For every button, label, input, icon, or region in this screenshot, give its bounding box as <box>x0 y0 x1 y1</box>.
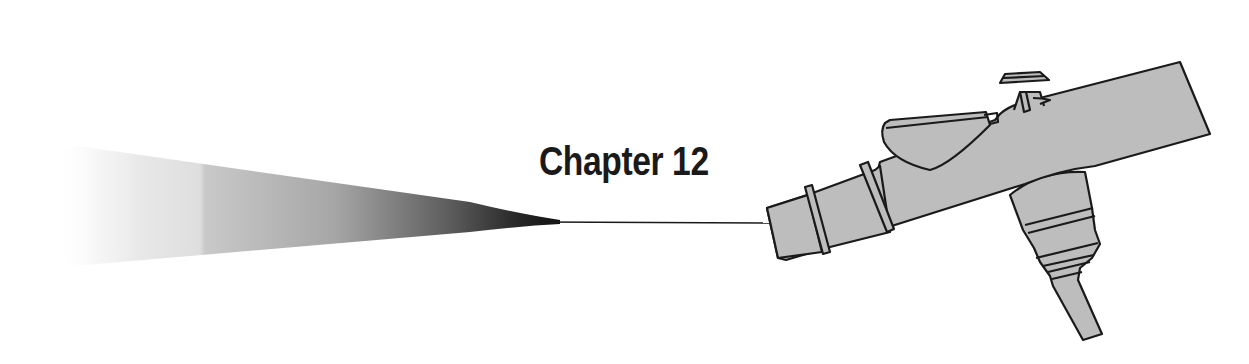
spray-line-icon <box>540 222 772 223</box>
chapter-opener-page: Chapter 12 <box>0 0 1249 364</box>
chapter-heading: Chapter 12 <box>539 141 709 182</box>
airbrush-icon <box>767 62 1210 340</box>
spray-cone-icon <box>40 140 560 275</box>
